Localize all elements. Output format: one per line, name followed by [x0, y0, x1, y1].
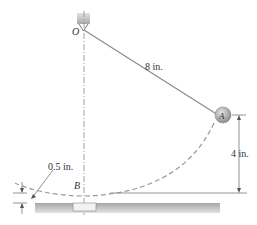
- peg-slot: [73, 203, 96, 211]
- height-label: 4 in.: [231, 148, 249, 159]
- pivot-label: O: [72, 26, 79, 37]
- clearance-arrow-bottom: [20, 203, 24, 208]
- length-label: 8 in.: [145, 61, 163, 72]
- height-arrow-top: [237, 115, 241, 120]
- height-arrow-bottom: [237, 188, 241, 193]
- pendulum-string: [84, 30, 218, 115]
- ground: [35, 203, 220, 213]
- ceiling-support: [77, 13, 90, 24]
- clearance-label: 0.5 in.: [48, 161, 73, 172]
- bob-label: A: [218, 111, 225, 121]
- clearance-leader-arrow: [31, 194, 36, 199]
- clearance-leader: [32, 170, 53, 198]
- pivot-bracket: [79, 24, 88, 31]
- swing-path: [15, 123, 214, 196]
- pendulum-diagram: O 8 in. A 4 in. 0.5 in. B: [0, 0, 257, 225]
- bottom-label: B: [74, 180, 80, 191]
- clearance-arrow-top: [20, 188, 24, 193]
